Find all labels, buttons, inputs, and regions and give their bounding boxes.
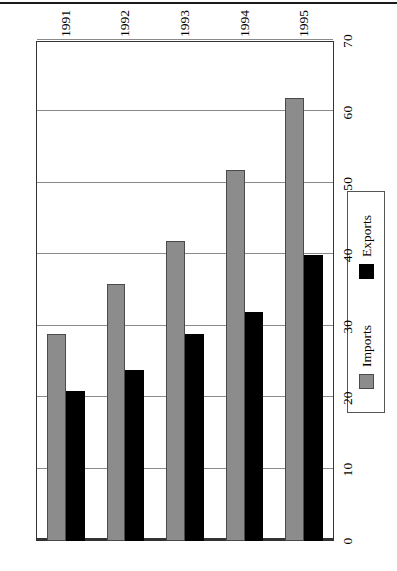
value-axis-tick-label: 40 <box>340 235 355 275</box>
value-axis-tick-label: 60 <box>340 92 355 132</box>
category-label-1991: 1991 <box>59 7 73 37</box>
legend-label-exports: Exports <box>359 215 374 257</box>
value-axis-tick-label: 70 <box>340 21 355 61</box>
value-axis-tick-label: 10 <box>340 450 355 490</box>
category-label-1993: 1993 <box>178 7 192 37</box>
category-label-1994: 1994 <box>238 7 252 37</box>
gridline-70 <box>37 39 333 40</box>
value-axis-tick-label: 20 <box>340 378 355 418</box>
bar-imports-1991 <box>47 334 66 541</box>
value-axis-tick-label: 0 <box>340 521 355 561</box>
legend-entry-exports: Exports <box>359 215 374 279</box>
bar-exports-1994 <box>245 312 264 541</box>
bar-imports-1992 <box>107 284 126 541</box>
category-label-1995: 1995 <box>297 7 311 37</box>
bar-imports-1995 <box>285 98 304 541</box>
rotated-chart-stage: Imports Exports 010203040506070199119921… <box>0 10 397 561</box>
bar-imports-1994 <box>226 170 245 541</box>
bar-exports-1992 <box>125 370 144 541</box>
legend-swatch-exports-icon <box>359 264 374 279</box>
value-axis-tick-label: 30 <box>340 307 355 347</box>
legend-label-imports: Imports <box>359 325 374 367</box>
bar-imports-1993 <box>166 241 185 541</box>
bar-exports-1995 <box>304 255 323 541</box>
legend-entry-imports: Imports <box>359 325 374 389</box>
category-label-1992: 1992 <box>118 7 132 37</box>
legend-swatch-imports-icon <box>359 374 374 389</box>
chart-canvas: Imports Exports 010203040506070199119921… <box>0 10 397 561</box>
bar-exports-1991 <box>66 391 85 541</box>
page-separator-rule <box>0 2 397 4</box>
bar-exports-1993 <box>185 334 204 541</box>
value-axis-tick-label: 50 <box>340 164 355 204</box>
